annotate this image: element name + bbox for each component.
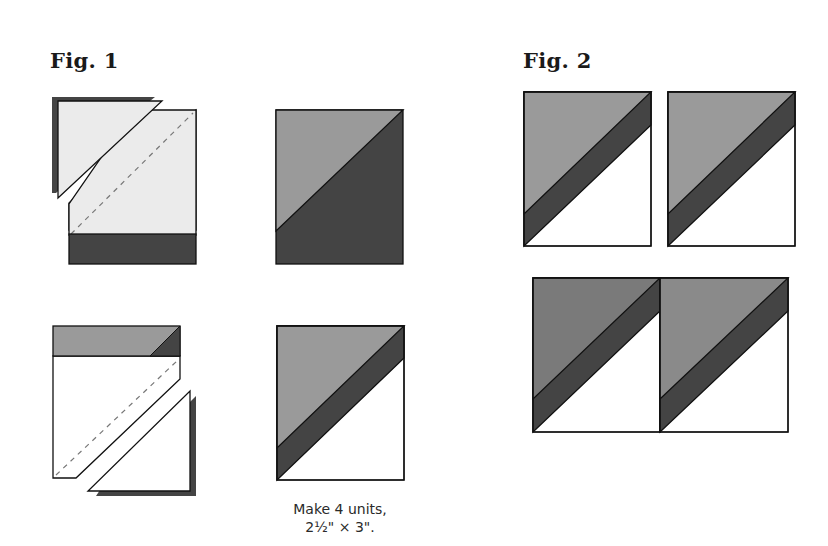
fig2-top-unit-1 <box>524 92 651 246</box>
fig1-step1-result-unit <box>276 110 403 264</box>
fig1-caption: Make 4 units, 2½" × 3". <box>262 500 418 536</box>
caption-line-1: Make 4 units, <box>262 500 418 518</box>
fig2-joined-unit-right <box>660 278 788 432</box>
caption-line-2: 2½" × 3". <box>262 518 418 536</box>
fig2-joined-unit-left <box>533 278 660 432</box>
fig1-step2-result-unit <box>277 326 404 480</box>
fig2-top-unit-2 <box>668 92 795 246</box>
quilt-diagram <box>0 0 828 546</box>
